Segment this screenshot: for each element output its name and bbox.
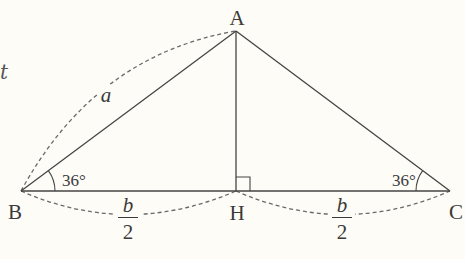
fraction-numerator: b — [337, 194, 348, 216]
diagram-canvas: t A B C H 36° 36° a b 2 b 2 — [0, 0, 465, 259]
angle-label-b: 36° — [62, 172, 86, 189]
angle-label-c: 36° — [392, 172, 416, 189]
side-label-bh-fraction: b 2 — [115, 194, 141, 243]
angle-arc-c — [416, 171, 423, 191]
fraction-bar — [332, 217, 352, 218]
fraction-bar — [118, 217, 138, 218]
fraction-denominator: 2 — [123, 221, 134, 243]
side-ac — [236, 31, 450, 191]
fraction-numerator: b — [123, 194, 134, 216]
right-angle-marker — [236, 177, 250, 191]
vertex-label-c: C — [449, 202, 463, 223]
side-label-hc-fraction: b 2 — [329, 194, 355, 243]
fraction-denominator: 2 — [337, 221, 348, 243]
vertex-label-a: A — [229, 8, 244, 29]
side-label-a: a — [99, 85, 114, 106]
angle-arc-b — [48, 171, 55, 191]
side-ab — [21, 31, 236, 191]
vertex-label-h: H — [229, 203, 244, 224]
cropped-text-fragment: t — [0, 60, 8, 84]
vertex-label-b: B — [8, 202, 22, 223]
